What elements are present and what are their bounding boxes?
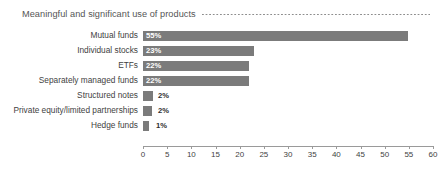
x-axis-tick <box>288 146 289 149</box>
bar-row: Hedge funds 1% <box>0 118 448 133</box>
x-axis-tick-label: 60 <box>429 150 438 159</box>
bar-track: 1% <box>143 121 149 131</box>
x-axis-tick-label: 0 <box>141 150 145 159</box>
bar-structured-notes[interactable] <box>143 91 153 101</box>
x-axis-tick-label: 30 <box>284 150 293 159</box>
bar-hedge-funds[interactable] <box>143 121 149 131</box>
category-label: Separately managed funds <box>0 73 138 88</box>
x-axis-tick <box>143 146 144 149</box>
category-label: Structured notes <box>0 88 138 103</box>
bar-value-label: 2% <box>158 91 169 101</box>
bar-private-equity-limited-partnerships[interactable] <box>143 106 152 116</box>
bar-track: 22% <box>143 76 249 86</box>
category-label: Individual stocks <box>0 43 138 58</box>
plot-area: Mutual funds 55% Individual stocks 23% E… <box>0 28 448 143</box>
x-axis-tick <box>264 146 265 149</box>
x-axis-tick <box>361 146 362 149</box>
bar-etfs[interactable]: 22% <box>143 61 249 71</box>
bar-row: Separately managed funds 22% <box>0 73 448 88</box>
x-axis-tick <box>385 146 386 149</box>
x-axis-tick <box>216 146 217 149</box>
category-label: ETFs <box>0 58 138 73</box>
category-label: Hedge funds <box>0 118 138 133</box>
x-axis-tick-label: 25 <box>259 150 268 159</box>
x-axis-tick-label: 40 <box>332 150 341 159</box>
bar-row: Individual stocks 23% <box>0 43 448 58</box>
bar-value-label: 22% <box>146 76 161 86</box>
x-axis-tick <box>409 146 410 149</box>
x-axis-tick <box>433 146 434 149</box>
bar-row: Private equity/limited partnerships 2% <box>0 103 448 118</box>
bar-track: 22% <box>143 61 249 71</box>
bar-value-label: 2% <box>158 106 169 116</box>
category-label: Mutual funds <box>0 28 138 43</box>
category-label: Private equity/limited partnerships <box>0 103 138 118</box>
x-axis-tick-label: 35 <box>308 150 317 159</box>
bar-track: 23% <box>143 46 254 56</box>
x-axis-tick-label: 15 <box>211 150 220 159</box>
x-axis-line: 051015202530354045505560 <box>143 146 433 147</box>
x-axis-tick-label: 55 <box>404 150 413 159</box>
x-axis-tick-label: 20 <box>235 150 244 159</box>
bar-track: 55% <box>143 31 408 41</box>
x-axis-tick <box>312 146 313 149</box>
bar-track: 2% <box>143 106 152 116</box>
x-axis-tick-label: 50 <box>380 150 389 159</box>
x-axis-tick-label: 5 <box>165 150 169 159</box>
bar-value-label: 23% <box>146 46 161 56</box>
x-axis-tick <box>240 146 241 149</box>
bar-mutual-funds[interactable]: 55% <box>143 31 408 41</box>
title-dotted-rule <box>202 14 430 15</box>
bar-row: Mutual funds 55% <box>0 28 448 43</box>
chart-title: Meaningful and significant use of produc… <box>22 9 196 19</box>
bar-track: 2% <box>143 91 153 101</box>
bar-individual-stocks[interactable]: 23% <box>143 46 254 56</box>
x-axis-tick <box>167 146 168 149</box>
x-axis-tick-label: 45 <box>356 150 365 159</box>
bar-row: ETFs 22% <box>0 58 448 73</box>
x-axis-tick <box>336 146 337 149</box>
bar-value-label: 55% <box>146 31 161 41</box>
x-axis-tick-label: 10 <box>187 150 196 159</box>
chart-title-row: Meaningful and significant use of produc… <box>22 7 430 21</box>
bar-separately-managed-funds[interactable]: 22% <box>143 76 249 86</box>
bar-value-label: 1% <box>156 121 167 131</box>
x-axis-tick <box>191 146 192 149</box>
bar-value-label: 22% <box>146 61 161 71</box>
chart-container: Meaningful and significant use of produc… <box>0 0 448 171</box>
bar-row: Structured notes 2% <box>0 88 448 103</box>
x-axis-ticks: 051015202530354045505560 <box>143 146 433 166</box>
